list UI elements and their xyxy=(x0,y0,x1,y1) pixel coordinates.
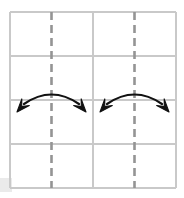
figure-canvas xyxy=(0,0,184,198)
figure-diagram xyxy=(0,0,184,198)
page-background xyxy=(0,0,184,198)
